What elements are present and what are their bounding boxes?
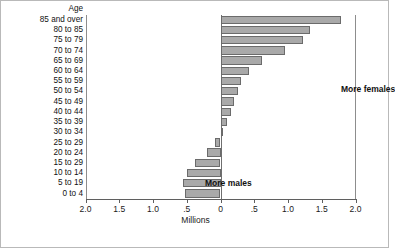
bar [221, 128, 223, 136]
x-axis-tick [119, 199, 120, 203]
bar-row [86, 127, 356, 137]
bar [221, 77, 242, 85]
bar [221, 97, 235, 105]
bar-row [86, 189, 356, 199]
annotation-more-females: More females [341, 84, 395, 94]
y-axis-title: Age [3, 4, 83, 13]
x-axis-tick [288, 199, 289, 203]
bar-row [86, 35, 356, 45]
x-axis-tick [187, 199, 188, 203]
x-axis-tick-label: 0 [206, 204, 236, 214]
bar-row [86, 138, 356, 148]
y-axis-tick-label: 5 to 19 [3, 178, 83, 187]
bar [187, 169, 221, 177]
y-axis-tick-label: 75 to 79 [3, 35, 83, 44]
x-axis-tick [322, 199, 323, 203]
bar [221, 46, 286, 54]
bar-row [86, 25, 356, 35]
y-axis-tick-label: 45 to 49 [3, 97, 83, 106]
y-axis-tick-label: 85 and over [3, 15, 83, 24]
bar [195, 159, 221, 167]
bar-row [86, 56, 356, 66]
x-axis-tick [356, 199, 357, 203]
bar [221, 67, 249, 75]
x-axis-title: Millions [1, 215, 390, 225]
x-axis-tick-label: 1.5 [104, 204, 134, 214]
x-axis-tick [86, 199, 87, 203]
y-axis-tick-label: 50 to 54 [3, 86, 83, 95]
y-axis-tick-label: 80 to 85 [3, 25, 83, 34]
y-axis-tick-label: 15 to 29 [3, 158, 83, 167]
bar-row [86, 168, 356, 178]
bar-row [86, 46, 356, 56]
y-axis-tick-label: 65 to 69 [3, 56, 83, 65]
y-axis-tick-label: 60 to 64 [3, 66, 83, 75]
bar [221, 56, 263, 64]
x-axis-tick [254, 199, 255, 203]
plot-area: More females More males [86, 15, 356, 199]
bar [215, 138, 220, 146]
bar-row [86, 148, 356, 158]
bar-row [86, 107, 356, 117]
x-axis-tick-label: 1.0 [273, 204, 303, 214]
bar-row [86, 97, 356, 107]
bar [221, 108, 231, 116]
x-axis-tick-label: .5 [172, 204, 202, 214]
bar-row [86, 76, 356, 86]
bar [221, 26, 310, 34]
bar-row [86, 158, 356, 168]
bar [221, 118, 227, 126]
y-axis-tick-label: 25 to 29 [3, 138, 83, 147]
y-axis-category-labels: Age 85 and over80 to 8575 to 7970 to 746… [1, 15, 83, 199]
y-axis-tick-label: 10 to 14 [3, 168, 83, 177]
y-axis-tick-label: 40 to 44 [3, 107, 83, 116]
y-axis-tick-label: 70 to 74 [3, 46, 83, 55]
bar [221, 16, 341, 24]
bar-row [86, 87, 356, 97]
y-axis-tick-label: 0 to 4 [3, 189, 83, 198]
bar-row [86, 15, 356, 25]
bar-row [86, 66, 356, 76]
x-axis-tick-label: 1.5 [307, 204, 337, 214]
bar [221, 87, 239, 95]
x-axis-tick [153, 199, 154, 203]
y-axis-tick-label: 55 to 59 [3, 76, 83, 85]
x-axis-tick-label: 1.0 [138, 204, 168, 214]
bar [207, 148, 221, 156]
annotation-more-males: More males [205, 178, 252, 188]
bar-row [86, 117, 356, 127]
x-axis-tick-label: 2.0 [341, 204, 371, 214]
y-axis-tick-label: 30 to 34 [3, 127, 83, 136]
x-axis-tick-label: 2.0 [71, 204, 101, 214]
y-axis-tick-label: 20 to 24 [3, 148, 83, 157]
x-axis-tick [221, 199, 222, 203]
bar [185, 189, 220, 197]
bar [221, 36, 303, 44]
x-axis-tick-label: .5 [239, 204, 269, 214]
y-axis-tick-label: 35 to 39 [3, 117, 83, 126]
